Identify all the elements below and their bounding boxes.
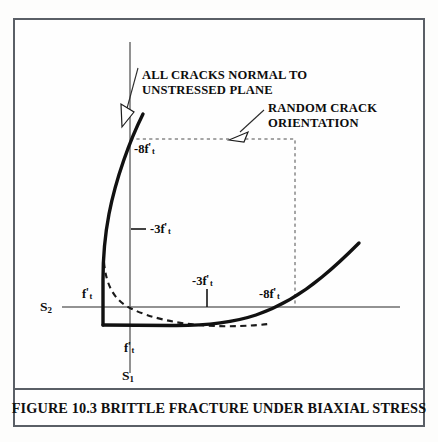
annotation-all-cracks: ALL CRACKS NORMAL TO UNSTRESSED PLANE bbox=[142, 68, 307, 97]
axis-label-s1: S1 bbox=[122, 369, 134, 384]
tick-label-y-minus-8ft: -8f't bbox=[134, 143, 155, 157]
axis-label-s2: S2 bbox=[40, 300, 52, 315]
curve-random-crack-orientation bbox=[104, 262, 268, 326]
tick-label-x-minus-3ft: -3f't bbox=[192, 275, 213, 289]
plot-canvas bbox=[0, 0, 438, 442]
tick-label-ft-tension-x: f't bbox=[124, 342, 134, 356]
tick-label-y-minus-3ft: -3f't bbox=[150, 223, 171, 237]
arrowhead-all-cracks-icon bbox=[121, 104, 134, 127]
figure-root: ALL CRACKS NORMAL TO UNSTRESSED PLANE RA… bbox=[0, 0, 438, 442]
figure-caption: FIGURE 10.3 BRITTLE FRACTURE UNDER BIAXI… bbox=[15, 392, 423, 425]
arrowhead-random-crack-icon bbox=[229, 132, 248, 142]
caption-divider bbox=[15, 388, 423, 390]
leader-line-random-crack-seg bbox=[240, 110, 264, 132]
annotation-random-crack: RANDOM CRACK ORIENTATION bbox=[268, 101, 377, 130]
tick-label-x-minus-8ft: -8f't bbox=[259, 288, 280, 302]
tick-label-ft-tension-y: f't bbox=[82, 288, 92, 302]
leader-line-all-cracks bbox=[126, 68, 138, 112]
